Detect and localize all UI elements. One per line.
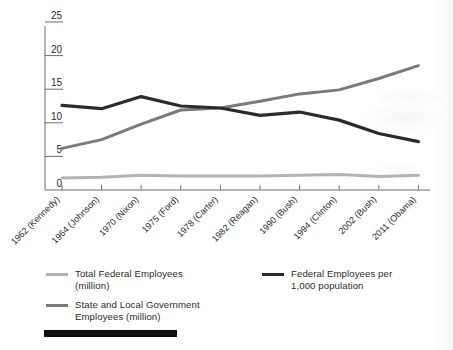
x-axis-tick-label: 1975 (Ford) [140, 194, 180, 234]
legend-item-total-federal-employees: Total Federal Employees (million) [46, 268, 236, 292]
footer-black-bar [44, 330, 177, 337]
legend-item-federal-employees-per-1000: Federal Employees per 1,000 population [262, 268, 452, 292]
y-axis-tick-label: 5 [56, 144, 62, 155]
x-axis-tick-label: 2002 (Bush) [336, 194, 378, 236]
x-axis-tick-label: 1990 (Bush) [257, 194, 299, 236]
series-line-1 [62, 66, 418, 149]
y-axis-tick-label: 25 [51, 10, 63, 21]
legend-label-line1: State and Local Government [75, 299, 200, 310]
legend-label-line2: Employees (million) [75, 311, 161, 322]
legend-item-state-local-government: State and Local Government Employees (mi… [46, 299, 276, 323]
y-axis-tick-label: 20 [51, 44, 63, 55]
line-chart: 2520151050 1962 (Kennedy)1964 (Johnson)1… [0, 0, 453, 350]
y-axis-tick-label: 0 [56, 178, 62, 189]
legend-label-state-local-government: State and Local Government Employees (mi… [75, 299, 200, 323]
legend-label-line1: Federal Employees per [291, 268, 392, 279]
x-axis-labels: 1962 (Kennedy)1964 (Johnson)1970 (Nixon)… [9, 194, 418, 246]
series-line-0 [62, 175, 418, 178]
chart-container: 2520151050 1962 (Kennedy)1964 (Johnson)1… [0, 0, 453, 350]
chart-series [62, 66, 418, 178]
x-axis-tick-label: 1970 (Nixon) [97, 194, 141, 238]
y-axis-tick-label: 10 [51, 111, 63, 122]
legend-swatch-state-local-government [46, 304, 68, 307]
y-axis-labels: 2520151050 [51, 10, 63, 189]
legend-label-line2: 1,000 population [291, 280, 364, 291]
legend-swatch-total-federal-employees [46, 273, 68, 276]
y-axis-tick-label: 15 [51, 77, 63, 88]
legend-swatch-federal-employees-per-1000 [262, 273, 284, 276]
legend-label-line2: (million) [75, 280, 109, 291]
legend-label-total-federal-employees: Total Federal Employees (million) [75, 268, 183, 292]
legend-label-line1: Total Federal Employees [75, 268, 183, 279]
legend-label-federal-employees-per-1000: Federal Employees per 1,000 population [291, 268, 392, 292]
